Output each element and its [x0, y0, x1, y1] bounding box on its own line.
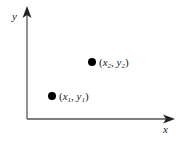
x-axis-label: x	[162, 123, 168, 135]
point-2: (x2, y2)	[88, 56, 129, 70]
x-axis	[27, 115, 175, 124]
point-2-marker-icon	[88, 58, 96, 66]
point-2-label: (x2, y2)	[99, 56, 129, 70]
y-axis	[23, 6, 32, 119]
point-1-marker-icon	[48, 92, 56, 100]
point-1-label: (x1, y1)	[59, 90, 89, 104]
y-axis-label: y	[11, 10, 17, 22]
point-1: (x1, y1)	[48, 90, 89, 104]
coordinate-diagram: y x (x1, y1) (x2, y2)	[0, 0, 184, 141]
